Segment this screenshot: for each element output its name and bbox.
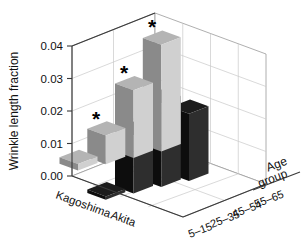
chart-canvas: 0.00 0.01 0.02 0.03 0.04 Wrinkle length … (0, 0, 306, 250)
significance-star-kagoshima-55-65: * (148, 15, 157, 38)
y-tick-label-0.02: 0.02 (41, 105, 63, 117)
wrinkle-length-fraction-3d-bar-chart: 0.00 0.01 0.02 0.03 0.04 Wrinkle length … (0, 0, 306, 250)
y-tick-label-0.00: 0.00 (41, 170, 63, 182)
bar-kagoshima-45-54-side (134, 83, 154, 158)
bar-kagoshima-55-65-side (161, 37, 181, 151)
z-depth-label-55-65: 55–65 (252, 188, 285, 210)
significance-star-kagoshima-25-35: * (92, 107, 101, 130)
y-tick-label-0.01: 0.01 (41, 138, 63, 150)
bar-akita-55-65-side (189, 106, 209, 181)
y-axis-title: Wrinkle length fraction (7, 52, 21, 171)
y-tick-label-0.04: 0.04 (41, 40, 64, 52)
y-tick-label-0.03: 0.03 (41, 73, 63, 85)
x-category-label-akita: Akita (109, 209, 138, 229)
significance-star-kagoshima-45-54: * (120, 61, 129, 84)
